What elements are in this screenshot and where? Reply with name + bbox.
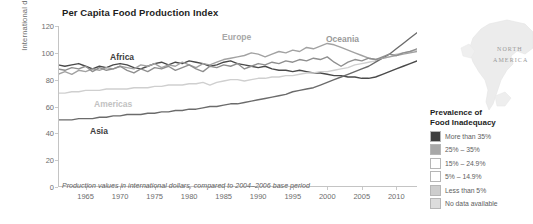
y-axis-tick-mark bbox=[55, 26, 58, 27]
legend-item-label: 25% – 35% bbox=[445, 146, 480, 153]
legend-item-label: 15% – 24.9% bbox=[445, 160, 485, 167]
x-axis-tick-label: 1990 bbox=[250, 192, 267, 201]
food-production-figure: NORTH AMERICA Per Capita Food Production… bbox=[0, 0, 533, 224]
x-axis-tick-label: 2000 bbox=[319, 192, 336, 201]
legend-item[interactable]: No data available bbox=[430, 198, 533, 209]
x-axis-tick-label: 2010 bbox=[388, 192, 405, 201]
y-axis-tick-label: 80 bbox=[46, 75, 54, 84]
y-axis-tick-mark bbox=[55, 80, 58, 81]
map-region-label-north: NORTH bbox=[497, 46, 523, 52]
y-axis-tick-label: 60 bbox=[46, 102, 54, 111]
x-axis-tick-label: 1970 bbox=[112, 192, 129, 201]
series-label-asia: Asia bbox=[90, 126, 108, 136]
legend-item-label: More than 35% bbox=[445, 133, 491, 140]
y-axis-tick-label: 0 bbox=[50, 183, 54, 192]
x-axis-tick-mark bbox=[327, 187, 328, 190]
y-axis-tick-label: 100 bbox=[41, 48, 54, 57]
x-axis-tick-label: 1975 bbox=[146, 192, 163, 201]
y-axis-tick-label: 40 bbox=[46, 129, 54, 138]
y-axis-tick-label: 20 bbox=[46, 156, 54, 165]
legend-item[interactable]: More than 35% bbox=[430, 131, 533, 142]
y-axis-tick-mark bbox=[55, 133, 58, 134]
legend-title-line2: Food Inadequacy bbox=[430, 118, 533, 128]
legend-title-line1: Prevalence of bbox=[430, 108, 533, 118]
legend-item[interactable]: 25% – 35% bbox=[430, 144, 533, 155]
chart-title: Per Capita Food Production Index bbox=[62, 7, 218, 18]
legend-swatch bbox=[430, 171, 441, 182]
x-axis-tick-label: 1985 bbox=[215, 192, 232, 201]
y-axis-tick-mark bbox=[55, 187, 58, 188]
legend-swatch bbox=[430, 158, 441, 169]
legend-swatch bbox=[430, 131, 441, 142]
x-axis-tick-label: 1980 bbox=[181, 192, 198, 201]
y-axis-tick-mark bbox=[55, 107, 58, 108]
map-legend: Prevalence of Food Inadequacy More than … bbox=[430, 108, 533, 209]
legend-swatch bbox=[430, 198, 441, 209]
legend-item[interactable]: Less than 5% bbox=[430, 185, 533, 196]
x-axis-tick-label: 1995 bbox=[284, 192, 301, 201]
legend-item-label: No data available bbox=[445, 200, 498, 207]
legend-item-label: Less than 5% bbox=[445, 187, 486, 194]
legend-swatch bbox=[430, 144, 441, 155]
y-axis-tick-mark bbox=[55, 53, 58, 54]
chart-footnote: Production values in international dolla… bbox=[62, 182, 310, 189]
map-region-label-america: AMERICA bbox=[493, 57, 528, 63]
x-axis-tick-mark bbox=[396, 187, 397, 190]
series-label-americas: Americas bbox=[94, 99, 132, 109]
x-axis-tick-label: 1965 bbox=[77, 192, 94, 201]
series-label-africa: Africa bbox=[110, 52, 134, 62]
y-axis-tick-label: 120 bbox=[41, 22, 54, 31]
legend-item-label: 5% – 14.9% bbox=[445, 173, 482, 180]
series-label-oceania: Oceania bbox=[326, 34, 359, 44]
legend-item[interactable]: 5% – 14.9% bbox=[430, 171, 533, 182]
north-america-map-fragment bbox=[455, 18, 533, 114]
x-axis-tick-mark bbox=[362, 187, 363, 190]
legend-swatch bbox=[430, 185, 441, 196]
x-axis-tick-label: 2005 bbox=[353, 192, 370, 201]
series-label-europe: Europe bbox=[222, 32, 251, 42]
y-axis-line bbox=[58, 26, 59, 187]
y-axis-label: International dollars bbox=[20, 0, 29, 76]
y-axis-tick-mark bbox=[55, 160, 58, 161]
legend-item[interactable]: 15% – 24.9% bbox=[430, 158, 533, 169]
